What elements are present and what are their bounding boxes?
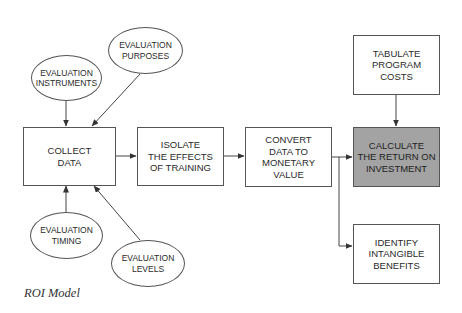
- tabulate-costs-box: TABULATE PROGRAM COSTS: [353, 35, 440, 95]
- calculate-roi-box: CALCULATE THE RETURN ON INVESTMENT: [353, 127, 440, 187]
- collect-data-box: COLLECT DATA: [23, 127, 116, 186]
- evaluation-purposes-node: EVALUATION PURPOSES: [108, 27, 183, 74]
- evaluation-instruments-node: EVALUATION INSTRUMENTS: [31, 55, 102, 101]
- isolate-effects-box: ISOLATE THE EFFECTS OF TRAINING: [137, 127, 224, 186]
- convert-monetary-box: CONVERT DATA TO MONETARY VALUE: [245, 127, 332, 187]
- diagram-caption: ROI Model: [24, 286, 80, 301]
- identify-intangible-box: IDENTIFY INTANGIBLE BENEFITS: [353, 224, 440, 284]
- evaluation-levels-node: EVALUATION LEVELS: [111, 240, 185, 287]
- arrow-convert-to-identify: [339, 157, 352, 246]
- evaluation-timing-node: EVALUATION TIMING: [30, 212, 103, 259]
